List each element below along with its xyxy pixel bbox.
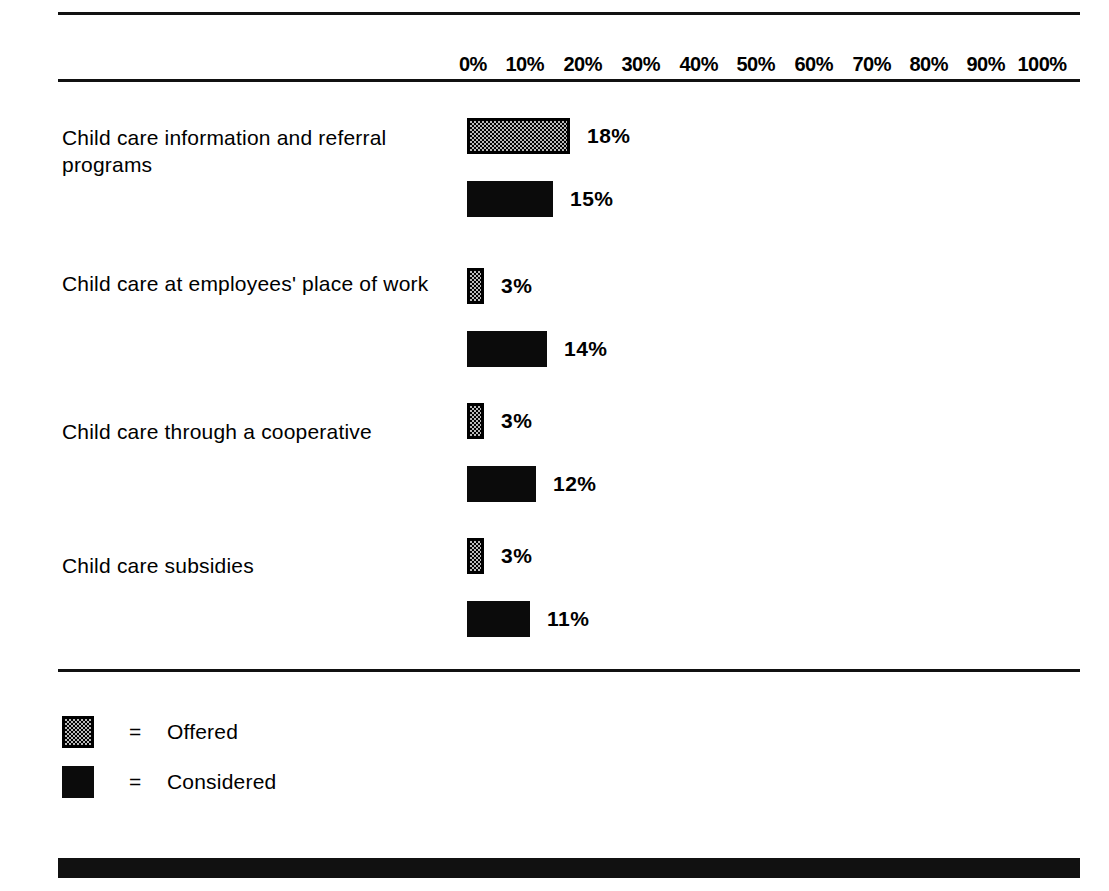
legend-swatch-considered: [62, 766, 94, 798]
axis-baseline-rule: [58, 79, 1080, 82]
x-axis-tick-70: 70%: [853, 52, 892, 76]
bar-offered: [467, 268, 484, 304]
legend-label: Considered: [167, 764, 276, 800]
x-axis-tick-30: 30%: [622, 52, 661, 76]
x-axis-tick-80: 80%: [910, 52, 949, 76]
bar-offered: [467, 403, 484, 439]
bar-considered: [467, 181, 553, 217]
x-axis-tick-labels: 0%10%20%30%40%50%60%70%80%90%100%: [440, 52, 1080, 76]
bottom-bar-rule: [58, 858, 1080, 878]
bar-considered: [467, 601, 530, 637]
x-axis-tick-0: 0%: [459, 52, 487, 76]
bar-considered: [467, 331, 547, 367]
bar-value-considered: 15%: [570, 181, 614, 217]
legend-divider-rule: [58, 669, 1080, 672]
bar-offered: [467, 118, 570, 154]
top-rule: [58, 12, 1080, 15]
bar-offered: [467, 538, 484, 574]
legend-label: Offered: [167, 714, 238, 750]
bar-value-considered: 12%: [553, 466, 597, 502]
x-axis-tick-10: 10%: [506, 52, 545, 76]
legend-equals-sign: =: [129, 764, 141, 800]
bar-value-considered: 11%: [547, 601, 589, 637]
bar-value-offered: 18%: [587, 118, 631, 154]
x-axis-tick-90: 90%: [967, 52, 1006, 76]
bar-considered: [467, 466, 536, 502]
bar-value-offered: 3%: [501, 538, 532, 574]
x-axis-tick-50: 50%: [737, 52, 776, 76]
category-label: Child care through a cooperative: [62, 418, 442, 445]
legend-swatch-offered: [62, 716, 94, 748]
x-axis-tick-100: 100%: [1018, 52, 1067, 76]
legend-equals-sign: =: [129, 714, 141, 750]
x-axis-tick-40: 40%: [680, 52, 719, 76]
chart-page: 0%10%20%30%40%50%60%70%80%90%100% Child …: [0, 0, 1109, 891]
category-label: Child care at employees' place of work: [62, 270, 442, 297]
category-label: Child care information and referral prog…: [62, 124, 442, 178]
bar-value-offered: 3%: [501, 268, 532, 304]
category-label: Child care subsidies: [62, 552, 442, 579]
bar-value-considered: 14%: [564, 331, 608, 367]
x-axis-tick-60: 60%: [795, 52, 834, 76]
bar-value-offered: 3%: [501, 403, 532, 439]
x-axis-tick-20: 20%: [564, 52, 603, 76]
